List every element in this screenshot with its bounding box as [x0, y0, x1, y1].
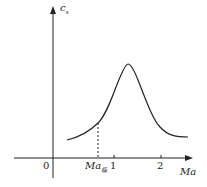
x-axis-label: Ma	[180, 166, 196, 177]
y-axis-label: cx	[60, 2, 69, 15]
x-axis-arrow-icon	[185, 155, 193, 161]
cx-curve	[67, 64, 188, 140]
y-axis-arrow-icon	[50, 6, 56, 14]
critical-mach-label: Ma临	[85, 160, 107, 174]
tick-1-label: 1	[110, 160, 116, 171]
tick-2-label: 2	[157, 160, 163, 171]
origin-label: 0	[43, 160, 49, 171]
chart-canvas	[0, 0, 207, 187]
